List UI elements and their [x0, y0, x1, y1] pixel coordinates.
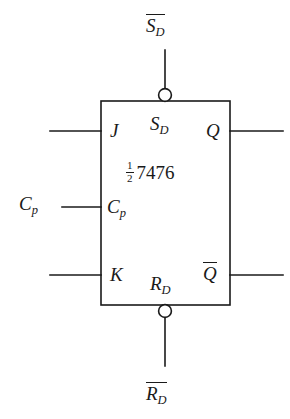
pin-label-set-direct: SD: [150, 114, 169, 136]
pin-label-k: K: [110, 265, 123, 284]
pin-label-q-bar: Q: [203, 262, 217, 283]
pin-label-j: J: [110, 121, 118, 140]
external-label-set-direct: SD: [146, 14, 165, 38]
external-label-reset-direct: RD: [146, 382, 167, 406]
set-direct-inversion-bubble-icon: [159, 89, 172, 102]
diagram-canvas: [0, 0, 290, 419]
external-label-clock: Cp: [19, 194, 38, 216]
pin-label-clock: Cp: [107, 197, 126, 219]
reset-direct-inversion-bubble-icon: [159, 305, 172, 318]
pin-label-reset-direct: RD: [150, 274, 171, 296]
pin-label-q: Q: [206, 121, 220, 140]
part-number: 7476: [137, 163, 175, 182]
one-half-fraction: 1 2: [126, 160, 134, 184]
logic-symbol-diagram: SD RD Cp J SD Q Cp K RD Q 1 2 7476: [0, 0, 290, 419]
device-designation: 1 2 7476: [126, 160, 175, 184]
